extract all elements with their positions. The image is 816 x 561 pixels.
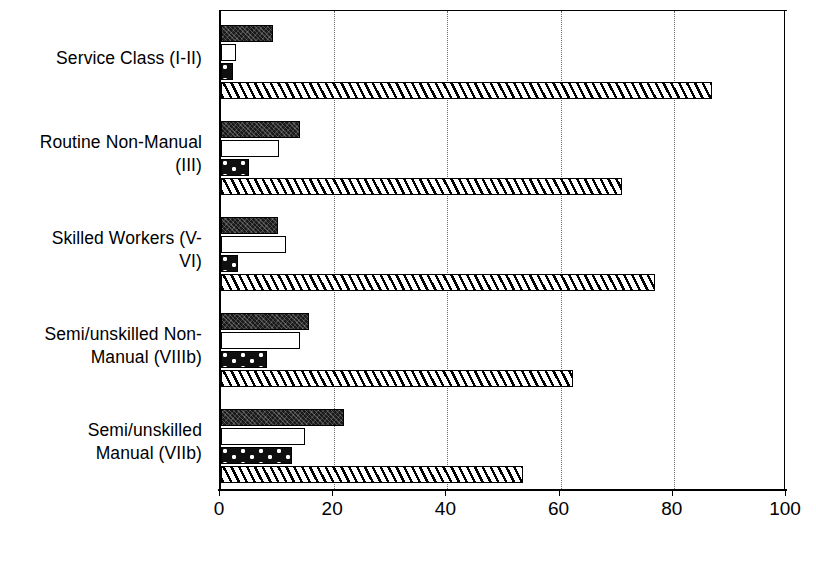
x-tick-80: [672, 489, 673, 496]
category-label-line: Service Class (I-II): [0, 47, 202, 70]
category-label-line: Skilled Workers (V-: [0, 227, 202, 250]
x-tick-label-0: 0: [214, 498, 225, 520]
bar-chart: Service Class (I-II)Routine Non-Manual(I…: [0, 0, 816, 561]
x-tick-label-20: 20: [322, 498, 343, 520]
bar-series-1-group-4: [221, 313, 309, 330]
x-tick-0: [219, 489, 220, 496]
category-label-2: Routine Non-Manual(III): [0, 131, 202, 177]
x-tick-label-100: 100: [769, 498, 801, 520]
category-label-3: Skilled Workers (V-VI): [0, 227, 202, 273]
bar-series-4-group-3: [221, 274, 655, 291]
x-tick-20: [332, 489, 333, 496]
bar-series-3-group-2: [221, 159, 249, 176]
category-label-line: Semi/unskilled Non-: [0, 323, 202, 346]
bar-series-4-group-4: [221, 370, 573, 387]
x-tick-60: [559, 489, 560, 496]
bar-series-2-group-5: [221, 428, 305, 445]
bar-series-2-group-2: [221, 140, 279, 157]
x-tick-label-80: 80: [661, 498, 682, 520]
plot-right-border: [784, 10, 785, 490]
category-label-line: Manual (VIIIb): [0, 346, 202, 369]
plot-area: [219, 10, 787, 491]
bar-series-2-group-4: [221, 332, 300, 349]
x-tick-label-60: 60: [548, 498, 569, 520]
bar-series-1-group-2: [221, 121, 300, 138]
category-label-4: Semi/unskilled Non-Manual (VIIIb): [0, 323, 202, 369]
category-label-line: Manual (VIIb): [0, 442, 202, 465]
bar-series-4-group-5: [221, 466, 523, 483]
bar-series-2-group-3: [221, 236, 286, 253]
bar-series-1-group-3: [221, 217, 278, 234]
bar-series-1-group-5: [221, 409, 344, 426]
x-tick-label-40: 40: [435, 498, 456, 520]
bar-series-4-group-2: [221, 178, 622, 195]
category-label-line: Semi/unskilled: [0, 419, 202, 442]
bar-series-4-group-1: [221, 82, 712, 99]
bar-series-3-group-5: [221, 447, 292, 464]
category-label-line: VI): [0, 250, 202, 273]
category-label-1: Service Class (I-II): [0, 47, 202, 70]
x-tick-40: [445, 489, 446, 496]
category-label-line: (III): [0, 154, 202, 177]
category-axis-labels: Service Class (I-II)Routine Non-Manual(I…: [0, 10, 210, 490]
bar-series-1-group-1: [221, 25, 273, 42]
x-axis-line: [218, 489, 787, 491]
category-label-5: Semi/unskilledManual (VIIb): [0, 419, 202, 465]
bar-series-2-group-1: [221, 44, 236, 61]
category-label-line: Routine Non-Manual: [0, 131, 202, 154]
x-tick-100: [785, 489, 786, 496]
bar-series-3-group-3: [221, 255, 238, 272]
bar-series-3-group-4: [221, 351, 267, 368]
bar-series-3-group-1: [221, 63, 233, 80]
